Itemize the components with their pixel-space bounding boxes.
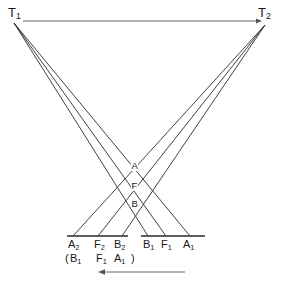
bottom-axis-arrowhead-icon: [98, 269, 105, 275]
base-label-f2: F2: [94, 239, 105, 250]
ray-T2-to-A2: [73, 25, 265, 236]
ray-diagram-canvas: [0, 0, 282, 282]
paren-label-f1-paren: F1: [96, 253, 107, 264]
ray-T2-to-F2: [98, 25, 265, 236]
terminal-label-t2: T2: [258, 6, 271, 19]
paren-label-a1-paren: A1: [114, 253, 126, 264]
intersection-label-f: F: [131, 181, 138, 191]
intersection-label-b: B: [131, 199, 138, 209]
top-direction-arrow: [23, 18, 262, 23]
base-label-b2: B2: [114, 239, 126, 250]
paren-label-close-paren: ): [131, 253, 135, 264]
base-label-f1: F1: [161, 239, 172, 250]
intersection-label-a: A: [131, 161, 138, 171]
base-label-a1: A1: [183, 239, 195, 250]
rays-group: [14, 23, 265, 236]
base-label-a2: A2: [68, 239, 80, 250]
paren-label-b1-paren: B1: [70, 253, 82, 264]
ray-T2-to-B2: [122, 25, 265, 236]
terminal-label-t1: T1: [8, 6, 21, 19]
ray-T1-to-B1: [14, 23, 148, 236]
base-label-b1: B1: [143, 239, 155, 250]
paren-label-open-paren: (: [65, 253, 69, 264]
bottom-direction-arrow: [98, 269, 185, 275]
ray-diagram-container: T1T2AFBA2F2B2B1F1A1(B1F1A1): [0, 0, 282, 282]
